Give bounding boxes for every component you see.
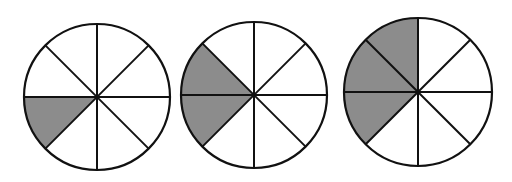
circle-2 bbox=[181, 22, 327, 168]
circle-1 bbox=[24, 24, 170, 170]
fraction-circles-diagram bbox=[0, 0, 512, 182]
circle-3 bbox=[344, 18, 492, 166]
